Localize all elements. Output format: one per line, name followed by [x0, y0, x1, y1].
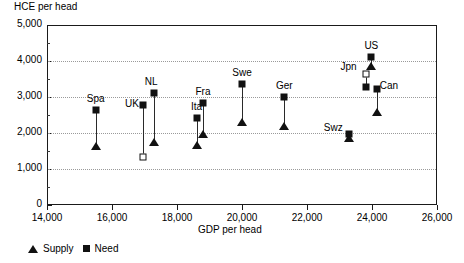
- supply-marker: [237, 118, 247, 126]
- supply-marker-open: [362, 70, 369, 77]
- data-point-label: NL: [145, 76, 158, 87]
- y-axis-title: HCE per head: [14, 1, 77, 12]
- legend-label-supply: Supply: [43, 243, 74, 254]
- x-axis-tick-label: 16,000: [82, 212, 142, 223]
- x-axis-tick: [177, 205, 178, 210]
- data-point-label: Spa: [87, 93, 105, 104]
- x-axis-tick: [437, 205, 438, 210]
- y-axis-minor-tick: [47, 43, 50, 44]
- supply-marker: [366, 62, 376, 70]
- supply-marker: [372, 108, 382, 116]
- supply-marker: [198, 130, 208, 138]
- x-axis-tick-label: 20,000: [212, 212, 272, 223]
- chart-container: HCE per head 01,0002,0003,0004,0005,000 …: [0, 0, 464, 263]
- x-axis-tick-label: 24,000: [342, 212, 402, 223]
- need-marker: [200, 100, 207, 107]
- need-marker: [239, 81, 246, 88]
- x-axis-tick-label: 14,000: [17, 212, 77, 223]
- legend-item-supply: Supply: [28, 243, 74, 254]
- y-axis-tick-label: 5,000: [2, 18, 42, 29]
- x-axis-title: GDP per head: [198, 224, 262, 235]
- connector-line: [96, 110, 97, 145]
- data-point-label: US: [364, 40, 378, 51]
- data-point-label: UK: [125, 98, 139, 109]
- legend-item-need: Need: [83, 243, 119, 254]
- x-axis-tick: [112, 205, 113, 210]
- y-axis-tick-label: 1,000: [2, 162, 42, 173]
- supply-marker: [279, 122, 289, 130]
- data-point-label: Swz: [324, 122, 343, 133]
- connector-line: [284, 97, 285, 125]
- x-axis-tick: [307, 205, 308, 210]
- y-axis-tick-label: 0: [2, 198, 42, 209]
- x-axis-tick: [372, 205, 373, 210]
- supply-marker: [192, 141, 202, 149]
- x-axis-tick-label: 18,000: [147, 212, 207, 223]
- x-axis-tick-label: 26,000: [407, 212, 464, 223]
- need-marker: [362, 84, 369, 91]
- y-axis-minor-tick: [47, 79, 50, 80]
- connector-line: [143, 105, 144, 158]
- gridline: [48, 133, 436, 134]
- need-marker: [139, 101, 146, 108]
- data-point-label: Ger: [276, 80, 293, 91]
- data-point-label: Swe: [232, 67, 251, 78]
- supply-marker: [91, 142, 101, 150]
- legend-label-need: Need: [95, 243, 119, 254]
- y-axis-tick-label: 3,000: [2, 90, 42, 101]
- y-axis-tick-label: 2,000: [2, 126, 42, 137]
- x-axis-tick: [242, 205, 243, 210]
- y-axis-tick-label: 4,000: [2, 54, 42, 65]
- square-marker-icon: [83, 245, 90, 252]
- y-axis-minor-tick: [47, 151, 50, 152]
- data-point-label: Can: [380, 80, 398, 91]
- chart-legend: Supply Need: [28, 243, 118, 254]
- y-axis-minor-tick: [47, 187, 50, 188]
- connector-line: [242, 84, 243, 121]
- x-axis-tick: [47, 205, 48, 210]
- data-point-label: Jpn: [340, 61, 356, 72]
- x-axis-tick-label: 22,000: [277, 212, 337, 223]
- need-marker: [92, 106, 99, 113]
- triangle-marker-icon: [28, 245, 38, 253]
- y-axis-minor-tick: [47, 115, 50, 116]
- need-marker: [368, 53, 375, 60]
- need-marker: [281, 94, 288, 101]
- need-marker: [346, 130, 353, 137]
- gridline: [48, 61, 436, 62]
- need-marker: [151, 89, 158, 96]
- data-point-label: Fra: [196, 86, 211, 97]
- connector-line: [203, 103, 204, 133]
- need-marker: [193, 114, 200, 121]
- supply-marker: [149, 138, 159, 146]
- gridline: [48, 169, 436, 170]
- supply-marker-open: [139, 154, 146, 161]
- connector-line: [154, 93, 155, 141]
- y-axis-tick: [47, 25, 52, 26]
